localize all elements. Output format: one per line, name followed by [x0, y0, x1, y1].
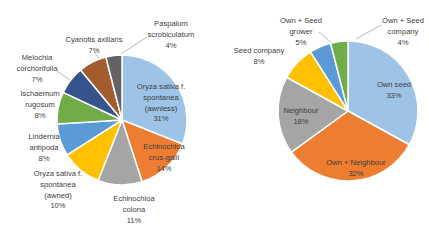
slice-data-label: 8% [39, 154, 50, 163]
slice-data-label: antipoda [29, 143, 59, 152]
seed-source-pie-chart: Own seed33%Own + Neighbour32%Neighbour18… [234, 16, 424, 181]
slice-data-label: 32% [348, 169, 363, 178]
slice-data-label: crus-galli [149, 153, 180, 162]
slice-data-label: Own + Seed [280, 16, 322, 25]
slice-data-label: corchorifolia [17, 64, 59, 73]
slice-data-label: Oryza sativa f. [34, 169, 83, 178]
slice-data-label: 11% [127, 216, 142, 225]
slice-data-label: 5% [296, 38, 307, 47]
slice-data-label: Own seed [377, 80, 411, 89]
label-leader-line [121, 37, 147, 54]
slice-data-label: (awned) [44, 191, 72, 200]
slice-data-label: 10% [50, 201, 65, 210]
slice-data-label: 4% [398, 38, 409, 47]
slice-data-label: Echinochloa [113, 194, 155, 203]
slice-data-label: grower [289, 27, 313, 36]
slice-data-label: Neighbour [283, 106, 319, 115]
slice-data-label: 18% [293, 117, 308, 126]
slice-data-label: Cyanotis axillaris [66, 35, 123, 44]
slice-data-label: Seed company [234, 46, 285, 55]
slice-data-label: company [388, 27, 419, 36]
slice-data-label: (awnless) [145, 104, 178, 113]
slice-data-label: Lindernia [28, 132, 60, 141]
slice-data-label: 7% [89, 46, 100, 55]
slice-data-label: 8% [254, 57, 265, 66]
slice-data-label: Melochia [22, 53, 53, 62]
slice-data-label: Ischaemum [20, 89, 59, 98]
slice-data-label: 14% [156, 164, 171, 173]
slice-data-label: spontanea [40, 180, 76, 189]
slice-data-label: Echinochloa [143, 142, 185, 151]
slice-data-label: Oryza sativa f. [137, 82, 186, 91]
label-leader-line [356, 25, 381, 39]
slice-data-label: Own + Neighbour [326, 158, 386, 167]
slice-data-label: 33% [386, 91, 401, 100]
label-leader-line [319, 32, 333, 44]
slice-data-label: spontanea [143, 93, 179, 102]
slice-data-label: Own + Seed [382, 16, 424, 25]
slice-data-label: Paspalum [154, 19, 188, 28]
slice-data-label: rugosum [25, 100, 55, 109]
slice-data-label: 4% [166, 41, 177, 50]
slice-data-label: colona [123, 205, 146, 214]
pie-charts-figure: Oryza sativa f.spontanea(awnless)31%Echi… [0, 0, 429, 232]
slice-data-label: 8% [35, 111, 46, 120]
label-leader-line [57, 71, 70, 80]
slice-data-label: 31% [153, 114, 168, 123]
weed-species-pie-chart: Oryza sativa f.spontanea(awnless)31%Echi… [17, 19, 195, 225]
slice-data-label: scrobiculatum [148, 30, 195, 39]
slice-data-label: 7% [32, 75, 43, 84]
pie-charts-canvas: Oryza sativa f.spontanea(awnless)31%Echi… [0, 0, 429, 232]
